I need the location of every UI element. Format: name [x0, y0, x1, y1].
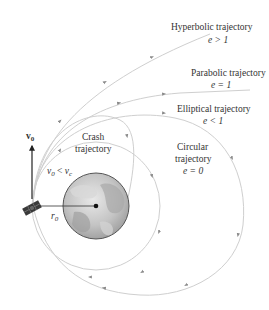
elliptical-label: Elliptical trajectory [177, 104, 251, 114]
velocity-label: v0 [26, 131, 35, 143]
earth-center-dot [94, 204, 99, 209]
elliptical-condition: e < 1 [203, 116, 223, 126]
orbital-trajectories-diagram: Hyperbolic trajectory e > 1 Parabolic tr… [0, 0, 269, 310]
circular-label-line2: trajectory [175, 154, 212, 164]
hyperbolic-condition: e > 1 [208, 35, 228, 45]
crash-label-line1: Crash [82, 132, 104, 142]
circular-condition: e = 0 [183, 166, 203, 176]
radius-label: r0 [51, 211, 59, 223]
crash-label-line2: trajectory [75, 144, 112, 154]
hyperbolic-label: Hyperbolic trajectory [171, 22, 253, 32]
speed-condition-label: v0 < vc [47, 166, 73, 178]
parabolic-label: Parabolic trajectory [191, 68, 266, 78]
parabolic-condition: e = 1 [211, 80, 231, 90]
circular-label-line1: Circular [177, 142, 209, 152]
